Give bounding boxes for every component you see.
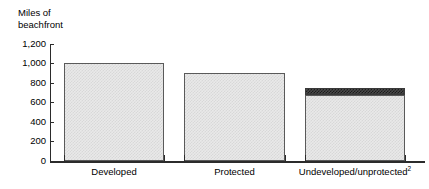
y-axis-label-0-wrap: 0 [0,156,46,166]
y-axis-tick-1000 [50,63,54,64]
x-axis-category-protected: Protected [184,166,285,178]
y-axis-label-0: 0 [41,156,46,166]
y-axis-tick-200 [50,141,54,142]
y-axis-tick-600 [50,102,54,103]
y-axis-title-line-1: Miles of [18,7,63,19]
x-axis-category-undeveloped-unprotected-footnote: 2 [408,165,412,172]
y-axis-tick-800 [50,83,54,84]
y-axis-label-200: 200 [30,136,46,146]
y-axis-label-800: 800 [30,78,46,88]
x-axis-category-undeveloped-unprotected-text: Undeveloped/unprotected [299,166,408,177]
y-axis-label-400-wrap: 400 [0,117,46,127]
y-axis-label-1200-wrap: 1,200 [0,39,46,49]
x-axis-tick-2 [184,155,185,162]
y-axis-tick-400 [50,122,54,123]
y-axis-label-1000-wrap: 1,000 [0,58,46,68]
bar-protected [184,73,285,161]
x-axis-tick-4 [305,155,306,162]
x-axis-category-undeveloped-unprotected: Undeveloped/unprotected2 [288,166,422,178]
y-axis-title: Miles of beachfront [18,7,63,30]
y-axis-label-1200: 1,200 [22,39,46,49]
y-axis-label-600: 600 [30,97,46,107]
y-axis-label-800-wrap: 800 [0,78,46,88]
y-axis-title-line-2: beachfront [18,19,63,31]
y-axis-label-200-wrap: 200 [0,136,46,146]
y-axis-label-600-wrap: 600 [0,97,46,107]
x-axis-tick-1 [164,155,165,162]
x-axis-tick-0 [64,155,65,162]
bar-undeveloped-unprotected [305,95,405,161]
bar-chart: Miles of beachfront 1,200 1,000 800 600 … [0,0,429,189]
bar-developed [64,63,164,161]
x-axis-tick-3 [285,155,286,162]
y-axis-label-400: 400 [30,117,46,127]
y-axis-label-1000: 1,000 [22,58,46,68]
x-axis-category-developed: Developed [64,166,164,178]
bar-undeveloped-unprotected-dark-segment [305,88,405,95]
x-axis-line [50,161,425,163]
y-axis-tick-1200 [50,44,54,45]
x-axis-tick-5 [405,155,406,162]
